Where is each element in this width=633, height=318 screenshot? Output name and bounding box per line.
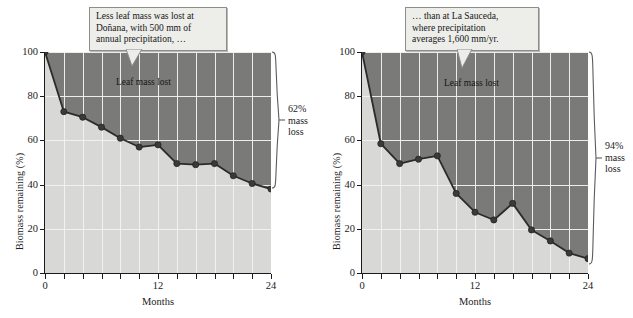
x-tick-label: 24 [573,281,603,292]
x-tick-mark [400,274,401,279]
data-point [193,162,199,168]
series-line-donana [45,52,271,189]
mass-loss-brace-la-sauceda [587,50,603,266]
y-tick-label: 0 [8,268,38,279]
mass-loss-text-la-sauceda: 94% mass loss [605,140,625,175]
x-tick-mark [177,274,178,279]
y-tick-label: 60 [8,135,38,146]
x-tick-mark [120,274,121,279]
x-tick-mark [139,274,140,279]
x-tick-mark [271,274,272,279]
callout-line-2: where precipitation [412,23,532,35]
callout-line-3: annual precipitation, … [96,34,220,46]
mass-loss-brace-donana [270,50,286,190]
data-point [45,52,48,55]
x-tick-label: 12 [460,281,490,292]
x-tick-mark [494,274,495,279]
y-axis-spine [44,52,45,273]
y-tick-label: 100 [325,47,355,58]
y-tick-label: 80 [325,91,355,102]
mass-loss-word-1-la-sauceda: mass [605,152,625,164]
x-tick-mark [83,274,84,279]
data-point [491,217,497,223]
callout-la-sauceda: … than at La Sauceda, where precipitatio… [405,7,539,51]
x-tick-mark [419,274,420,279]
x-tick-label: 24 [256,281,286,292]
mass-loss-word-1-donana: mass [288,115,308,127]
mass-loss-percent-donana: 62% [288,103,308,115]
data-point [98,124,104,130]
x-tick-mark [513,274,514,279]
y-tick-label: 80 [8,91,38,102]
y-axis-spine [361,52,362,273]
x-tick-mark [215,274,216,279]
x-tick-mark [588,274,589,279]
data-point [136,144,142,150]
callout-line-3: averages 1,600 mm/yr. [412,34,532,46]
figure-root: 020406080100 01224 Biomass remaining (%)… [0,0,633,318]
data-point [155,142,161,148]
data-point [566,250,572,256]
x-tick-mark [45,274,46,279]
y-tick-label: 0 [325,268,355,279]
x-tick-mark [158,274,159,279]
x-tick-mark [381,274,382,279]
data-point [434,153,440,159]
data-point [249,180,255,186]
x-tick-mark [362,274,363,279]
data-point [230,173,236,179]
x-axis-label-la-sauceda: Months [362,296,588,307]
data-point [397,161,403,167]
leaf-mass-lost-label-la-sauceda: Leaf mass lost [444,78,499,88]
x-tick-label: 12 [143,281,173,292]
callout-tail-donana [126,49,148,67]
mass-loss-text-donana: 62% mass loss [288,103,308,138]
x-tick-mark [102,274,103,279]
y-axis-label-la-sauceda: Biomass remaining (%) [331,153,342,250]
leaf-mass-lost-label-donana: Leaf mass lost [116,77,171,87]
panel-donana: 020406080100 01224 Biomass remaining (%)… [0,0,316,318]
x-tick-mark [196,274,197,279]
x-tick-mark [550,274,551,279]
data-point [453,190,459,196]
mass-loss-word-2-donana: loss [288,126,308,138]
x-tick-mark [233,274,234,279]
data-point [378,141,384,147]
mass-loss-percent-la-sauceda: 94% [605,140,625,152]
data-point [415,156,421,162]
data-point [510,200,516,206]
data-point [362,52,365,55]
x-tick-mark [437,274,438,279]
data-point [472,209,478,215]
callout-donana: Less leaf mass was lost at Doñana, with … [89,7,227,51]
data-point [547,238,553,244]
x-tick-mark [252,274,253,279]
x-tick-mark [569,274,570,279]
data-point [211,161,217,167]
x-tick-mark [64,274,65,279]
callout-tail-la-sauceda [457,49,479,69]
y-tick-label: 100 [8,47,38,58]
data-point [117,135,123,141]
callout-line-1: … than at La Sauceda, [412,11,532,23]
callout-line-2: Doñana, with 500 mm of [96,23,220,35]
x-tick-mark [532,274,533,279]
mass-loss-word-2-la-sauceda: loss [605,163,625,175]
x-tick-label: 0 [30,281,60,292]
callout-line-1: Less leaf mass was lost at [96,11,220,23]
x-tick-mark [456,274,457,279]
x-tick-label: 0 [347,281,377,292]
x-axis-label-donana: Months [45,296,271,307]
data-point [80,114,86,120]
y-tick-label: 60 [325,135,355,146]
data-point [174,161,180,167]
panel-la-sauceda: 020406080100 01224 Biomass remaining (%)… [317,0,633,318]
y-axis-label-donana: Biomass remaining (%) [14,153,25,250]
data-point [528,227,534,233]
x-tick-mark [475,274,476,279]
data-point [61,109,67,115]
